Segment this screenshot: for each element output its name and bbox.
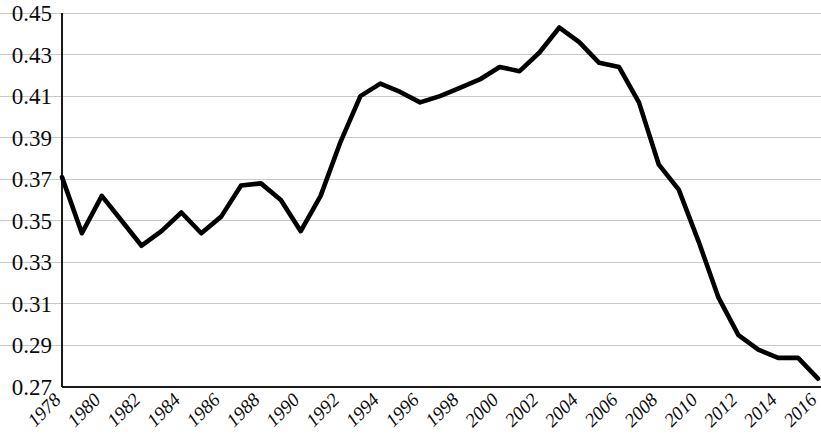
line-chart: 0.450.430.410.390.370.350.330.310.290.27… [0,0,821,444]
y-axis-tick-label: 0.33 [12,250,52,275]
y-axis-tick-label: 0.39 [12,126,52,151]
y-axis-tick-label: 0.31 [12,292,52,317]
y-axis-tick-label: 0.29 [12,333,52,358]
y-axis-tick-label: 0.43 [12,43,52,68]
y-axis-tick-label: 0.41 [12,84,52,109]
y-axis-tick-label: 0.45 [12,1,52,26]
y-axis-tick-label: 0.35 [12,209,52,234]
y-axis-tick-label: 0.37 [12,167,52,192]
chart-container: 0.450.430.410.390.370.350.330.310.290.27… [0,0,821,444]
